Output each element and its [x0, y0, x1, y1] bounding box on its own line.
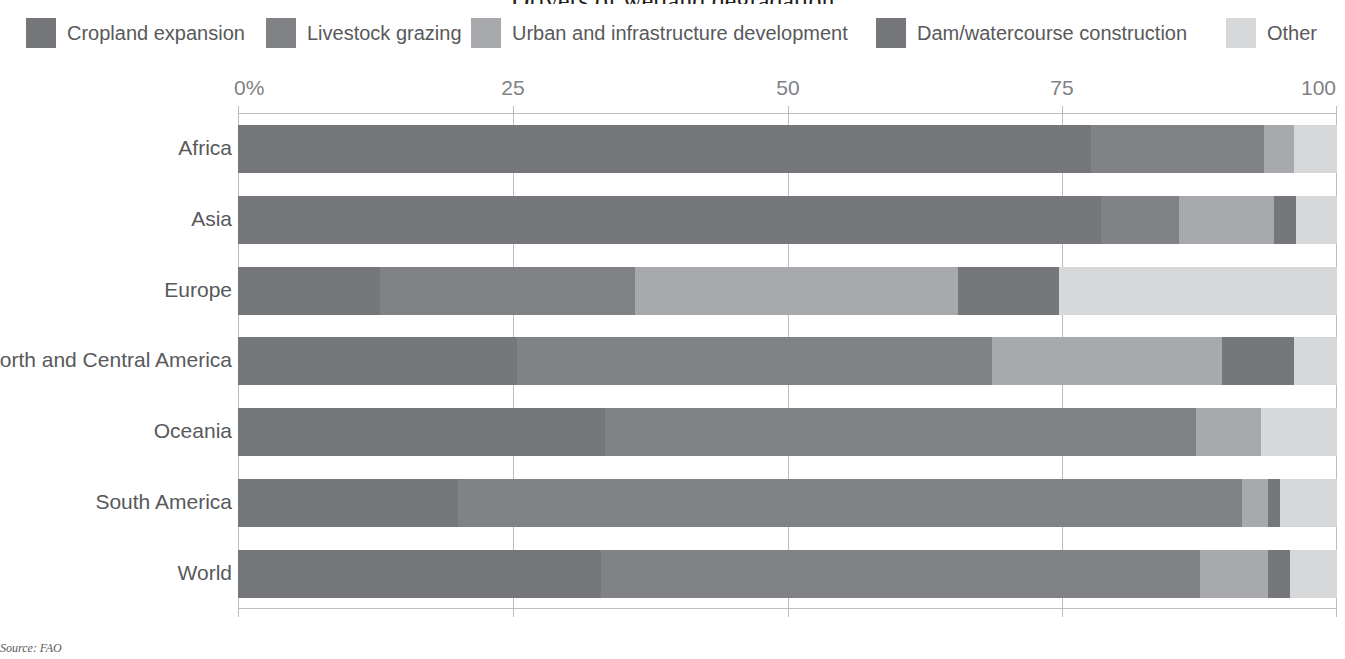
axis-tick-bottom-0% — [238, 609, 239, 617]
legend-item-label: Urban and infrastructure development — [512, 22, 848, 45]
legend-item-0[interactable]: Cropland expansion — [26, 16, 245, 50]
bar-segment-4[interactable] — [1294, 337, 1337, 385]
chart-legend: Cropland expansionLivestock grazingUrban… — [0, 16, 1345, 50]
bar-segment-4[interactable] — [1296, 196, 1337, 244]
bar-row: Africa — [238, 125, 1337, 173]
category-label: Asia — [191, 207, 232, 231]
axis-tick-label: 0% — [234, 76, 264, 100]
bar-segment-1[interactable] — [517, 337, 992, 385]
axis-tick-bottom-75 — [1062, 609, 1063, 617]
bar-segment-3[interactable] — [1274, 196, 1296, 244]
legend-item-label: Livestock grazing — [307, 22, 462, 45]
bar-row: World — [238, 550, 1337, 598]
legend-item-3[interactable]: Dam/watercourse construction — [876, 16, 1187, 50]
bar-segment-0[interactable] — [238, 408, 605, 456]
axis-tick-bottom-100 — [1336, 609, 1337, 617]
bar-row: Europe — [238, 267, 1337, 315]
axis-tick-label: 75 — [1050, 76, 1073, 100]
axis-tick-label: 100 — [1301, 76, 1336, 100]
category-label: Africa — [178, 136, 232, 160]
stacked-bar[interactable] — [238, 479, 1337, 527]
bar-segment-2[interactable] — [1200, 550, 1268, 598]
axis-tick-75 — [1062, 106, 1063, 114]
source-note: Source: FAO — [0, 641, 62, 656]
stacked-bar[interactable] — [238, 267, 1337, 315]
bar-segment-2[interactable] — [1242, 479, 1267, 527]
bar-segment-3[interactable] — [958, 267, 1059, 315]
legend-swatch-urban — [471, 18, 501, 48]
bar-segment-1[interactable] — [380, 267, 635, 315]
stacked-bar[interactable] — [238, 408, 1337, 456]
bar-segment-2[interactable] — [1264, 125, 1294, 173]
bar-segment-0[interactable] — [238, 479, 458, 527]
stacked-bar[interactable] — [238, 196, 1337, 244]
axis-tick-50 — [788, 106, 789, 114]
bar-segment-2[interactable] — [635, 267, 958, 315]
category-label: North and Central America — [0, 348, 232, 372]
category-label: World — [178, 561, 232, 585]
stacked-bar-chart: Drivers of wetland degradation Cropland … — [0, 0, 1345, 659]
bar-segment-0[interactable] — [238, 550, 601, 598]
legend-item-4[interactable]: Other — [1226, 16, 1317, 50]
bar-segment-3[interactable] — [1222, 337, 1295, 385]
axis-tick-100 — [1336, 106, 1337, 114]
legend-swatch-livestock — [266, 18, 296, 48]
bar-segment-1[interactable] — [1091, 125, 1265, 173]
axis-tick-bottom-50 — [788, 609, 789, 617]
bar-segment-0[interactable] — [238, 337, 517, 385]
stacked-bar[interactable] — [238, 550, 1337, 598]
bar-segment-2[interactable] — [992, 337, 1222, 385]
bar-segment-3[interactable] — [1268, 479, 1280, 527]
bar-segment-1[interactable] — [605, 408, 1196, 456]
stacked-bar[interactable] — [238, 125, 1337, 173]
axis-tick-label: 25 — [501, 76, 524, 100]
category-label: South America — [95, 490, 232, 514]
legend-swatch-cropland — [26, 18, 56, 48]
axis-tick-bottom-25 — [513, 609, 514, 617]
bar-row: Oceania — [238, 408, 1337, 456]
bar-row: South America — [238, 479, 1337, 527]
legend-swatch-dam — [876, 18, 906, 48]
bar-segment-3[interactable] — [1268, 550, 1290, 598]
bar-segment-4[interactable] — [1261, 408, 1337, 456]
bar-segment-4[interactable] — [1290, 550, 1337, 598]
bar-segment-1[interactable] — [458, 479, 1243, 527]
bar-segment-4[interactable] — [1059, 267, 1337, 315]
bar-segment-4[interactable] — [1294, 125, 1337, 173]
stacked-bar[interactable] — [238, 337, 1337, 385]
bar-segment-2[interactable] — [1179, 196, 1275, 244]
bar-row: North and Central America — [238, 337, 1337, 385]
bar-segment-2[interactable] — [1196, 408, 1261, 456]
bar-segment-1[interactable] — [1101, 196, 1179, 244]
legend-item-label: Dam/watercourse construction — [917, 22, 1187, 45]
bar-segment-0[interactable] — [238, 125, 1091, 173]
legend-item-1[interactable]: Livestock grazing — [266, 16, 462, 50]
bar-segment-1[interactable] — [601, 550, 1200, 598]
category-label: Oceania — [154, 419, 232, 443]
axis-tick-25 — [513, 106, 514, 114]
bar-segment-0[interactable] — [238, 196, 1101, 244]
chart-title: Drivers of wetland degradation — [0, 0, 1345, 4]
legend-item-label: Other — [1267, 22, 1317, 45]
axis-tick-0% — [238, 106, 239, 114]
axis-tick-label: 50 — [776, 76, 799, 100]
category-label: Europe — [164, 278, 232, 302]
bar-segment-4[interactable] — [1280, 479, 1337, 527]
plot-area: 0%255075100AfricaAsiaEuropeNorth and Cen… — [238, 114, 1337, 609]
bar-row: Asia — [238, 196, 1337, 244]
legend-item-label: Cropland expansion — [67, 22, 245, 45]
bar-segment-0[interactable] — [238, 267, 380, 315]
legend-item-2[interactable]: Urban and infrastructure development — [471, 16, 848, 50]
legend-swatch-other — [1226, 18, 1256, 48]
